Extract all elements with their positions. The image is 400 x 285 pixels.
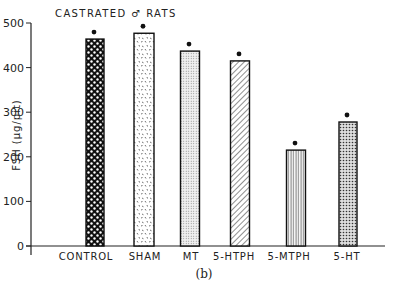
- bar-control: [86, 39, 104, 246]
- y-tick-label: 300: [3, 106, 24, 119]
- x-tick-label: CONTROL: [59, 251, 113, 262]
- y-tick-label: 100: [3, 195, 24, 208]
- x-tick-label: MT: [183, 251, 199, 262]
- bar-5-mtph: [287, 150, 306, 246]
- significance-marker: [187, 42, 192, 47]
- x-tick-label: 5-MTPH: [267, 251, 310, 262]
- y-tick-label: 200: [3, 151, 24, 164]
- x-tick-labels: CONTROLSHAMMT5-HTPH5-MTPH5-HT: [59, 251, 361, 262]
- y-tick-label: 400: [3, 62, 24, 75]
- significance-marker: [237, 52, 242, 57]
- bar-5-ht: [339, 122, 357, 246]
- bar-sham: [134, 33, 154, 246]
- significance-marker: [293, 141, 298, 146]
- y-tick-label: 500: [3, 17, 24, 30]
- bars: [86, 24, 357, 246]
- chart-title: CASTRATED ♂ RATS: [55, 8, 177, 19]
- x-tick-label: 5-HT: [334, 251, 361, 262]
- significance-marker: [92, 30, 97, 35]
- significance-marker: [141, 24, 146, 29]
- x-tick-label: SHAM: [129, 251, 162, 262]
- bar-5-htph: [231, 61, 250, 246]
- figure-caption: (b): [195, 267, 212, 281]
- fsh-bar-chart: CASTRATED ♂ RATS FSH (μg/pit) 0100200300…: [0, 0, 400, 285]
- significance-marker: [345, 113, 350, 118]
- y-tick-label: 0: [17, 240, 24, 253]
- bar-mt: [181, 51, 200, 246]
- x-tick-label: 5-HTPH: [213, 251, 255, 262]
